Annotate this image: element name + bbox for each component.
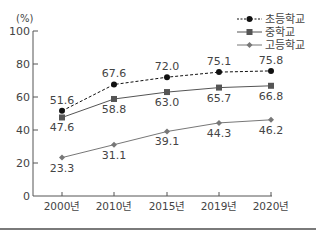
legend: 초등학교중학교고등학교 [237,13,305,52]
legend-label: 초등학교 [265,13,305,26]
diamond-marker-icon [59,155,65,161]
y-tick-label: 100 [9,25,30,38]
x-tick-label: 2000년 [44,200,81,212]
data-label: 31.1 [102,149,127,162]
y-tick-label: 40 [16,124,30,137]
square-marker-icon [164,89,170,95]
square-marker-icon [216,85,222,91]
diamond-marker-icon [111,142,117,148]
x-tick-label: 2020년 [253,200,290,212]
legend-label: 중학교 [265,26,295,39]
legend-item: 중학교 [237,26,295,39]
circle-marker-icon [164,74,170,80]
square-marker-icon [268,83,274,89]
circle-marker-icon [268,68,274,74]
data-label: 23.3 [50,162,75,175]
data-label: 75.8 [259,54,284,67]
diamond-marker-icon [268,117,274,123]
x-tick-label: 2010년 [96,200,133,212]
data-label: 72.0 [155,60,180,73]
series-layer: 51.667.672.075.175.847.658.863.065.766.8… [50,54,284,175]
square-marker-icon [247,29,253,35]
data-label: 66.8 [259,90,284,103]
circle-marker-icon [59,108,65,114]
y-tick-label: 0 [23,190,30,203]
diamond-marker-icon [216,120,222,126]
diamond-marker-icon [164,128,170,134]
legend-item: 초등학교 [237,13,305,26]
diamond-marker-icon [247,42,253,48]
square-marker-icon [111,96,117,102]
data-label: 39.1 [155,135,180,148]
legend-item: 고등학교 [237,39,305,52]
axes: 020406080100(%)2000년2010년2015년2019년2020년 [9,13,289,212]
bottom-divider [0,228,316,230]
data-label: 75.1 [207,55,232,68]
circle-marker-icon [111,81,117,87]
data-label: 51.6 [50,94,75,107]
legend-label: 고등학교 [265,39,305,52]
data-label: 63.0 [155,96,180,109]
y-tick-label: 20 [16,157,30,170]
y-tick-label: 60 [16,91,30,104]
data-label: 67.6 [102,67,127,80]
data-label: 58.8 [102,103,127,116]
data-label: 47.6 [50,121,75,134]
series-2: 47.658.863.065.766.8 [50,83,284,135]
x-tick-label: 2015년 [149,200,186,212]
x-tick-label: 2019년 [201,200,238,212]
circle-marker-icon [247,16,253,22]
line-chart: 020406080100(%)2000년2010년2015년2019년2020년… [0,0,316,231]
circle-marker-icon [216,69,222,75]
series-3: 23.331.139.144.346.2 [50,117,284,175]
data-label: 65.7 [207,92,232,105]
data-label: 46.2 [259,124,284,137]
square-marker-icon [59,114,65,120]
y-tick-label: 80 [16,58,30,71]
data-label: 44.3 [207,127,232,140]
y-axis-unit-label: (%) [16,13,33,24]
